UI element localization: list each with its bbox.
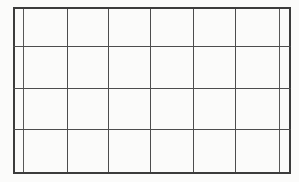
table-vertical-line-3 (150, 7, 151, 174)
table-horizontal-line-1 (13, 46, 291, 47)
table-vertical-line-right-frame (289, 7, 291, 174)
table-vertical-line-left-inner (23, 7, 24, 174)
table-horizontal-line-3 (13, 129, 291, 130)
table-vertical-line-2 (108, 7, 109, 174)
grid-table[interactable] (0, 0, 299, 182)
table-vertical-line-right-inner (279, 7, 280, 174)
table-vertical-line-5 (235, 7, 236, 174)
table-vertical-line-4 (193, 7, 194, 174)
screenshot-canvas (0, 0, 299, 182)
table-vertical-line-left-frame (13, 7, 15, 174)
table-vertical-line-1 (67, 7, 68, 174)
table-horizontal-line-bottom-frame (13, 172, 291, 174)
table-horizontal-line-2 (13, 88, 291, 89)
table-horizontal-line-top-frame (13, 7, 291, 9)
